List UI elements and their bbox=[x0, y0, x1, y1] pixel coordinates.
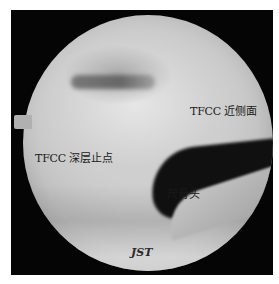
arthroscopic-view bbox=[23, 15, 273, 271]
label-tfcc-proximal-surface: TFCC 近侧面 bbox=[190, 102, 257, 118]
label-tfcc-deep-insertion: TFCC 深层止点 bbox=[35, 149, 113, 165]
journal-logo: JST bbox=[131, 246, 152, 259]
label-ulnar-head: 尺骨头 bbox=[167, 185, 199, 201]
image-frame bbox=[11, 10, 273, 275]
scope-notch bbox=[14, 115, 32, 129]
dark-band bbox=[71, 75, 155, 89]
